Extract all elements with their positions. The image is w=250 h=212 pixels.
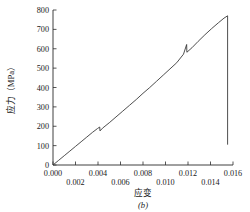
- x-tick-label: 0.004: [89, 169, 107, 178]
- y-tick-label: 700: [37, 25, 49, 34]
- figure-caption: (b): [138, 200, 148, 210]
- data-series-group: [53, 16, 228, 165]
- x-tick-label: 0.008: [134, 169, 152, 178]
- x-tick-label: 0.014: [201, 178, 219, 187]
- y-tick-label: 200: [37, 122, 49, 131]
- y-tick-label: 400: [37, 84, 49, 93]
- y-axis-title: 应力（MPa）: [5, 62, 16, 114]
- stress-strain-curve: [53, 16, 228, 165]
- stress-strain-chart: 0.0000.0020.0040.0060.0080.0100.0120.014…: [0, 0, 250, 212]
- y-tick-label: 800: [37, 6, 49, 15]
- y-axis-tick-labels: 0100200300400500600700800: [37, 6, 49, 170]
- y-tick-label: 600: [37, 45, 49, 54]
- y-tick-label: 300: [37, 103, 49, 112]
- y-tick-label: 100: [37, 142, 49, 151]
- x-tick-label: 0.010: [156, 178, 174, 187]
- x-axis-tick-labels: 0.0000.0020.0040.0060.0080.0100.0120.014…: [44, 169, 242, 187]
- x-tick-label: 0.006: [111, 178, 129, 187]
- x-axis-ticks: [53, 162, 233, 166]
- y-tick-label: 0: [45, 161, 49, 170]
- y-tick-label: 500: [37, 64, 49, 73]
- y-axis-ticks: [53, 10, 57, 165]
- x-axis-title: 应变: [134, 187, 152, 198]
- x-tick-label: 0.016: [224, 169, 242, 178]
- x-tick-label: 0.000: [44, 169, 62, 178]
- x-tick-label: 0.012: [179, 169, 197, 178]
- x-tick-label: 0.002: [66, 178, 84, 187]
- figure-container: 0.0000.0020.0040.0060.0080.0100.0120.014…: [0, 0, 250, 212]
